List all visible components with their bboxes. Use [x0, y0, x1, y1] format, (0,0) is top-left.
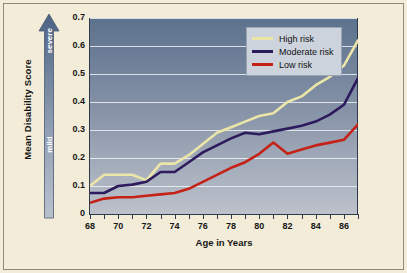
x-tick-mark	[231, 215, 232, 219]
x-tick-mark	[132, 215, 133, 219]
legend: High riskModerate riskLow risk	[246, 27, 342, 76]
series-line	[90, 124, 358, 202]
y-axis-title: Mean Disability Score	[22, 35, 33, 185]
x-tick-mark	[302, 215, 303, 219]
legend-item[interactable]: High risk	[252, 32, 334, 45]
x-axis-line	[89, 214, 359, 215]
x-tick-mark	[245, 215, 246, 219]
x-tick-label: 84	[304, 221, 328, 231]
chart-figure: Mean Disability Score severe mild 00.10.…	[0, 0, 407, 273]
legend-label: High risk	[279, 34, 314, 44]
y-tick-label: 0.7	[55, 12, 85, 22]
y-tick-label: 0.3	[55, 124, 85, 134]
legend-item[interactable]: Low risk	[252, 58, 334, 71]
x-tick-mark	[344, 215, 345, 219]
x-tick-label: 74	[163, 221, 187, 231]
x-tick-mark	[273, 215, 274, 219]
legend-swatch-icon	[252, 63, 273, 66]
y-tick-label: 0.4	[55, 96, 85, 106]
y-tick-label: 0.5	[55, 68, 85, 78]
x-axis-title: Age in Years	[90, 237, 358, 248]
legend-swatch-icon	[252, 37, 273, 40]
legend-label: Low risk	[279, 60, 312, 70]
x-tick-label: 68	[78, 221, 102, 231]
x-tick-mark	[161, 215, 162, 219]
x-tick-mark	[217, 215, 218, 219]
y-axis-line	[89, 18, 90, 215]
x-tick-label: 76	[191, 221, 215, 231]
x-tick-label: 72	[134, 221, 158, 231]
x-tick-mark	[175, 215, 176, 219]
y-tick-label: 0.2	[55, 152, 85, 162]
x-tick-label: 82	[275, 221, 299, 231]
x-tick-mark	[146, 215, 147, 219]
x-tick-mark	[358, 215, 359, 219]
y-tick-label: 0	[55, 208, 85, 218]
x-tick-mark	[189, 215, 190, 219]
x-tick-label: 86	[332, 221, 356, 231]
x-tick-label: 78	[219, 221, 243, 231]
x-tick-label: 80	[247, 221, 271, 231]
x-tick-mark	[90, 215, 91, 219]
y-tick-label: 0.1	[55, 180, 85, 190]
x-tick-mark	[118, 215, 119, 219]
severity-label-mild: mild	[45, 134, 54, 156]
y-tick-label: 0.6	[55, 40, 85, 50]
severity-label-severe: severe	[45, 32, 54, 54]
x-tick-mark	[259, 215, 260, 219]
x-tick-mark	[203, 215, 204, 219]
legend-swatch-icon	[252, 50, 273, 53]
legend-item[interactable]: Moderate risk	[252, 45, 334, 58]
x-tick-label: 70	[106, 221, 130, 231]
x-tick-mark	[316, 215, 317, 219]
x-tick-mark	[287, 215, 288, 219]
x-tick-mark	[104, 215, 105, 219]
legend-label: Moderate risk	[279, 47, 334, 57]
x-tick-mark	[330, 215, 331, 219]
